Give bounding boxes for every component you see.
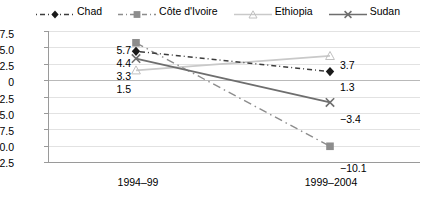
series-ethiopia: [132, 51, 335, 73]
legend-label-sudan: Sudan: [370, 6, 400, 17]
data-label-sudan-1994-99: 3.3: [91, 71, 131, 82]
triangle-marker-icon: [234, 6, 272, 17]
y-axis-tick-label: 5.0: [0, 45, 14, 56]
legend-item-chad[interactable]: Chad: [36, 6, 102, 17]
line-chart: Chad Côte d'Ivoire Ethiopia: [0, 0, 436, 207]
data-label-chad-1999-2004: 1.3: [340, 82, 355, 93]
data-label-chad-1994-99: 4.4: [91, 58, 131, 69]
diamond-marker-icon: [326, 67, 334, 76]
y-axis-tick-label: −10.0: [0, 142, 14, 153]
series-line: [136, 56, 330, 70]
x-axis-tick-label: 1994–99: [78, 176, 198, 188]
series-line: [136, 59, 330, 103]
square-marker-icon: [132, 39, 140, 47]
legend-item-ethiopia[interactable]: Ethiopia: [234, 6, 313, 17]
y-axis-tick-label: −2.5: [0, 94, 14, 105]
y-axis-tick-label: 7.5: [0, 29, 14, 40]
legend-item-sudan[interactable]: Sudan: [329, 6, 400, 17]
y-axis-tick-label: 0: [0, 77, 14, 88]
data-label-ethiopia-1994-99: 1.5: [91, 84, 131, 95]
data-label-cote-divoire-1994-99: 5.7: [91, 45, 131, 56]
square-marker-icon: [118, 6, 156, 17]
series-sudan: [132, 54, 334, 106]
cross-marker-icon: [329, 6, 367, 17]
diamond-marker-icon: [36, 6, 74, 17]
y-axis-tick-label: −5.0: [0, 110, 14, 121]
y-axis-tick-label: −7.5: [0, 126, 14, 137]
square-marker-icon: [326, 142, 334, 150]
series-c-te-d-ivoire: [132, 39, 334, 150]
x-axis-tick-label: 1999–2004: [271, 176, 391, 188]
data-label-cote-divoire-1999-2004: −10.1: [340, 163, 367, 174]
y-axis-tick-label: 2.5: [0, 61, 14, 72]
legend-label-cote-divoire: Côte d'Ivoire: [159, 6, 218, 17]
data-label-sudan-1999-2004: −3.4: [340, 114, 361, 125]
legend-item-cote-divoire[interactable]: Côte d'Ivoire: [118, 6, 218, 17]
data-label-ethiopia-1999-2004: 3.7: [340, 60, 355, 71]
series-chad: [132, 47, 334, 77]
chart-legend: Chad Côte d'Ivoire Ethiopia: [0, 2, 436, 20]
legend-label-chad: Chad: [77, 6, 102, 17]
legend-label-ethiopia: Ethiopia: [275, 6, 313, 17]
y-axis-tick-label: −12.5: [0, 158, 14, 169]
